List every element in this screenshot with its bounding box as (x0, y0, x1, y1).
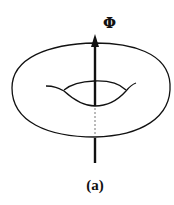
flux-label: Φ (103, 14, 116, 32)
flux-arrow-head-icon (91, 34, 99, 47)
figure-caption: (a) (0, 177, 174, 194)
torus-outer-outline (12, 43, 170, 137)
torus-diagram (0, 0, 174, 205)
